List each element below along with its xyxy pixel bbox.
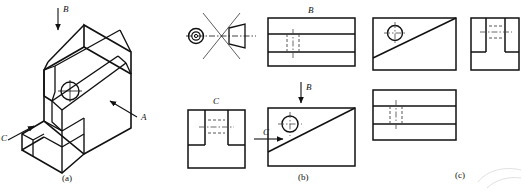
panel-a-isometric [22,25,131,173]
label-arrow-b-panel-b: B [306,83,312,92]
label-view-b-top: B [308,6,314,15]
drawing-sheet: B A C (a) B B C C (b) (c) [0,0,523,191]
scan-artifact [478,169,521,189]
panel-b-left-view [188,110,245,168]
caption-panel-c: (c) [455,171,465,180]
label-view-c-top: C [213,97,219,106]
caption-panel-a: (a) [62,174,72,183]
panel-b-front-view [268,108,355,166]
panel-b-top-view [268,18,355,66]
label-arrow-a-panel-a: A [141,113,147,122]
panel-b-left-view-hidden [208,120,225,133]
panel-c-top-view [373,90,456,140]
label-arrow-c-panel-a: C [1,134,7,143]
drawing-canvas [0,0,523,191]
panel-b-front-view-centerline [278,112,302,136]
panel-a-arrow-a [110,101,137,117]
label-arrow-b-panel-a: B [63,5,69,14]
caption-panel-b: (b) [298,173,309,182]
panel-c-front-view [373,18,456,70]
label-arrow-c-panel-b: C [263,128,269,137]
